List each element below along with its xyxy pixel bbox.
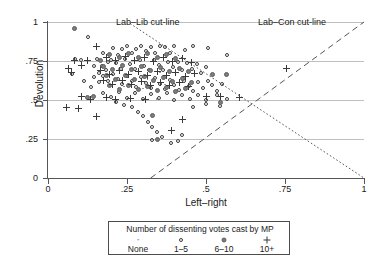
scatter-point-plus: [144, 72, 151, 79]
scatter-point-plus: [68, 69, 75, 76]
scatter-point-open-circle: [139, 44, 143, 48]
legend-entry: None: [117, 235, 159, 254]
scatter-point-open-circle: [163, 45, 167, 49]
scatter-point-open-circle: [150, 138, 154, 142]
scatter-point-plus: [185, 83, 192, 90]
scatter-point-open-circle: [196, 80, 200, 84]
legend-marker-open-circle-icon: [160, 235, 202, 244]
scatter-point-plus: [84, 57, 91, 64]
scatter-point-plus: [217, 93, 224, 100]
y-tick-label: 1: [0, 18, 38, 27]
scatter-point-open-circle: [180, 133, 184, 137]
scatter-point-plus: [131, 57, 138, 64]
scatter-point-open-circle: [191, 44, 195, 48]
scatter-point-open-circle: [165, 91, 169, 95]
scatter-point-plus: [75, 105, 82, 112]
scatter-point-filled-circle: [155, 88, 160, 93]
legend-label: 10+: [246, 244, 288, 254]
scatter-point-plus: [138, 78, 145, 85]
scatter-point-plus: [103, 94, 110, 101]
figure-caption: [0, 266, 382, 273]
scatter-point-open-circle: [120, 47, 124, 51]
scatter-point-open-circle: [86, 35, 90, 39]
scatter-point-plus: [154, 68, 161, 75]
scatter-point-open-circle: [172, 44, 176, 48]
scatter-point-plus: [128, 81, 135, 88]
plot-area: [48, 22, 364, 178]
scatter-point-plus: [191, 70, 198, 77]
scatter-point-plus: [122, 53, 129, 60]
scatter-point-filled-circle: [98, 58, 103, 63]
scatter-point-filled-circle: [155, 137, 160, 142]
scatter-point-plus: [179, 55, 186, 62]
scatter-point-open-circle: [89, 85, 93, 89]
scatter-point-plus: [116, 67, 123, 74]
scatter-point-open-circle: [92, 75, 96, 79]
scatter-point-open-circle: [176, 139, 180, 143]
scatter-point-open-circle: [206, 46, 210, 50]
scatter-point-open-circle: [149, 45, 153, 49]
scatter-point-filled-circle: [136, 87, 141, 92]
scatter-point-open-circle: [130, 105, 134, 109]
scatter-point-open-circle: [134, 47, 138, 51]
legend-label: None: [117, 244, 159, 254]
legend: Number of dissenting votes cast by MP No…: [108, 221, 290, 255]
y-tick-label: .75: [0, 57, 38, 66]
scatter-point-filled-circle: [150, 113, 155, 118]
scatter-point-plus: [103, 54, 110, 61]
y-tick-label: 0: [0, 174, 38, 183]
scatter-point-open-circle: [160, 135, 164, 139]
scatter-point-open-circle: [215, 89, 219, 93]
scatter-point-plus: [203, 93, 210, 100]
scatter-point-plus: [109, 81, 116, 88]
scatter-point-open-circle: [196, 93, 200, 97]
scatter-point-open-circle: [218, 104, 222, 108]
scatter-point-plus: [157, 79, 164, 86]
scatter-point-plus: [127, 95, 134, 102]
scatter-point-filled-circle: [218, 100, 223, 105]
legend-title: Number of dissenting votes cast by MP: [109, 224, 291, 234]
scatter-point-plus: [182, 73, 189, 80]
scatter-point-plus: [97, 67, 104, 74]
scatter-point-filled-circle: [173, 89, 178, 94]
scatter-point-plus: [166, 82, 173, 89]
x-tick-label: .25: [112, 185, 142, 194]
legend-marker-plus-icon: [246, 235, 288, 244]
legend-marker-dot-icon: [117, 235, 159, 244]
scatter-point-open-circle: [125, 44, 129, 48]
scatter-point-dot: [142, 88, 144, 90]
scatter-point-open-circle: [201, 86, 205, 90]
scatter-point-plus: [135, 68, 142, 75]
scatter-point-filled-circle: [224, 72, 229, 77]
scatter-point-open-circle: [122, 103, 126, 107]
legend-label: 6–10: [203, 244, 245, 254]
scatter-point-open-circle: [158, 44, 162, 48]
scatter-point-plus: [168, 127, 175, 134]
legend-label: 1–5: [160, 244, 202, 254]
scatter-point-plus: [78, 62, 85, 69]
scatter-plot-figure: 0.25.5.751 0.25.5.751 Devolution Left–ri…: [0, 0, 382, 273]
scatter-point-plus: [93, 113, 100, 120]
scatter-point-plus: [147, 82, 154, 89]
scatter-point-open-circle: [155, 130, 159, 134]
scatter-point-open-circle: [225, 53, 229, 57]
scatter-point-plus: [283, 65, 290, 72]
x-tick-label: .5: [191, 185, 221, 194]
scatter-point-plus: [188, 59, 195, 66]
scatter-point-plus: [163, 72, 170, 79]
scatter-point-open-circle: [204, 102, 208, 106]
scatter-point-plus: [125, 71, 132, 78]
scatter-point-plus: [142, 96, 149, 103]
scatter-point-open-circle: [225, 97, 229, 101]
scatter-point-open-circle: [172, 98, 176, 102]
scatter-point-open-circle: [150, 125, 154, 129]
scatter-point-open-circle: [82, 79, 86, 83]
scatter-point-plus: [150, 58, 157, 65]
scatter-point-open-circle: [183, 48, 187, 52]
x-tick-label: 1: [349, 185, 379, 194]
scatter-point-plus: [112, 57, 119, 64]
scatter-point-plus: [141, 54, 148, 61]
scatter-point-open-circle: [111, 46, 115, 50]
scatter-point-plus: [112, 96, 119, 103]
scatter-point-plus: [100, 77, 107, 84]
